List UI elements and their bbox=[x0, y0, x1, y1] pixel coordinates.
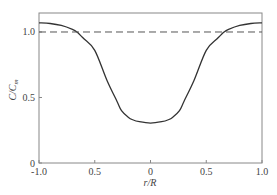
y-tick-label: 0.5 bbox=[23, 92, 36, 103]
x-tick-label: 1.0 bbox=[256, 166, 269, 177]
x-tick-label: 0.5 bbox=[89, 166, 102, 177]
x-tick-label: 0.5 bbox=[200, 166, 213, 177]
series-layer bbox=[39, 23, 262, 123]
y-axis-label: C/Cm bbox=[7, 79, 20, 100]
chart: 00.51.0 -1.00.500.51.0 r/R C/Cm bbox=[0, 0, 277, 195]
concentration-curve bbox=[39, 23, 262, 123]
x-tick-label: -1.0 bbox=[31, 166, 47, 177]
x-tick-label: 0 bbox=[148, 166, 153, 177]
plot-frame bbox=[39, 13, 262, 163]
y-tick-label: 1.0 bbox=[23, 26, 36, 37]
x-axis-label: r/R bbox=[144, 177, 157, 188]
